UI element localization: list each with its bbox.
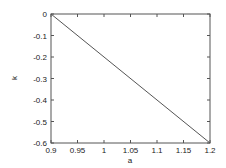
y-axis-label: k (10, 75, 19, 80)
y-tick-label: -0.3 (33, 75, 47, 84)
y-tick-label: -0.2 (33, 53, 47, 62)
y-tick-label: -0.4 (33, 96, 47, 105)
data-line (51, 14, 210, 143)
line-chart: 0-0.1-0.2-0.3-0.4-0.5-0.6 0.90.9511.051.… (0, 0, 226, 168)
x-axis-label: a (128, 156, 133, 165)
x-tick-label: 0.95 (70, 146, 86, 155)
x-axis-ticks: 0.90.9511.051.11.151.2 (45, 14, 216, 155)
y-tick-label: 0 (43, 10, 48, 19)
x-tick-label: 1.15 (176, 146, 192, 155)
y-tick-label: -0.5 (33, 118, 47, 127)
y-axis-ticks: 0-0.1-0.2-0.3-0.4-0.5-0.6 (33, 10, 210, 148)
x-tick-label: 1 (102, 146, 107, 155)
y-tick-label: -0.1 (33, 32, 47, 41)
x-tick-label: 0.9 (45, 146, 57, 155)
x-tick-label: 1.1 (151, 146, 163, 155)
x-tick-label: 1.05 (123, 146, 139, 155)
x-tick-label: 1.2 (204, 146, 216, 155)
